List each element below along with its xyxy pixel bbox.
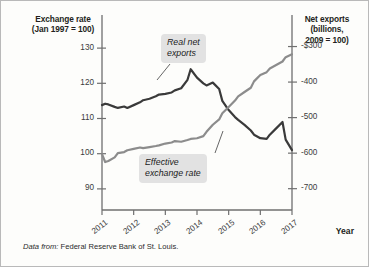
source-lead: Data from: [23,242,58,251]
y-tick-label-right: -500 [301,112,361,121]
series-lines [102,54,292,162]
y-tick-label-left: 90 [42,183,94,192]
y-tick-label-right: -$300 [301,41,361,50]
source-note: Data from: Federal Reserve Bank of St. L… [23,242,178,251]
x-axis-title: Year [336,226,354,236]
source-text: Federal Reserve Bank of St. Louis. [58,242,178,251]
y-tick-label-left: 120 [42,78,94,87]
y-tick-label-left: 110 [42,113,94,122]
y-tick-label-left: 130 [42,43,94,52]
y-tick-label-right: -700 [301,183,361,192]
y-tick-label-right: -400 [301,77,361,86]
y-tick-label-left: 100 [42,148,94,157]
chart-figure: Exchange rate (Jan 1997 = 100) Net expor… [0,0,369,267]
callout-real-net-exports: Real net exports [161,34,206,63]
callout-effective-exchange-rate: Effective exchange rate [139,154,207,183]
y-tick-label-right: -600 [301,148,361,157]
